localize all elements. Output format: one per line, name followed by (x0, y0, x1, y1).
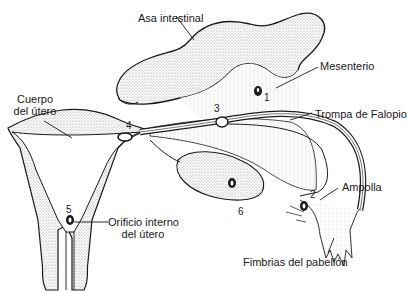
marker-5: 5 (66, 205, 72, 215)
label-cuerpo-del-utero: Cuerpo del útero (10, 93, 60, 117)
marker-1: 1 (264, 93, 270, 103)
label-asa-intestinal: Asa intestinal (138, 12, 203, 24)
label-trompa-de-falopio: Trompa de Falopio (315, 108, 407, 120)
marker-2: 2 (310, 190, 316, 200)
site-3-marker (216, 117, 228, 127)
label-orificio-interno: Orificio interno del útero (108, 216, 178, 240)
marker-3: 3 (214, 104, 220, 114)
marker-6: 6 (238, 207, 244, 217)
label-ampolla: Ampolla (342, 181, 382, 193)
leader-ampolla (320, 188, 338, 200)
site-4-marker (118, 133, 132, 141)
label-fimbrias: Fimbrias del pabellón (243, 256, 348, 268)
label-mesenterio: Mesenterio (320, 60, 374, 72)
marker-4: 4 (126, 121, 132, 131)
